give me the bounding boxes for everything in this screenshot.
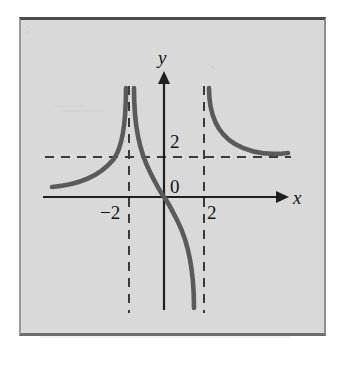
scan-speckle xyxy=(55,105,85,107)
scan-speckle xyxy=(211,66,214,69)
scan-speckle xyxy=(40,336,290,338)
figure-root: y x 2 0 −2 2 xyxy=(0,0,345,375)
y-tick-label-2: 2 xyxy=(170,132,180,151)
scan-speckle xyxy=(60,110,104,112)
x-tick-label-2: 2 xyxy=(207,203,217,222)
x-tick-label-neg2: −2 xyxy=(100,203,120,222)
y-axis-label: y xyxy=(158,48,166,67)
x-axis-label: x xyxy=(293,188,301,207)
origin-label: 0 xyxy=(170,177,180,196)
scan-speckle xyxy=(26,31,29,34)
